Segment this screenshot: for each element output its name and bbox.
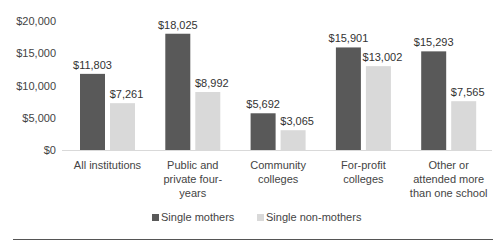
bar-single-non-mothers bbox=[366, 66, 391, 150]
x-tick-label: colleges bbox=[343, 173, 384, 185]
chart: $0$5,000$10,000$15,000$20,000$11,803$7,2… bbox=[0, 0, 503, 244]
x-tick-label: years bbox=[179, 187, 206, 199]
x-tick-label: Community bbox=[250, 159, 306, 171]
data-label: $3,065 bbox=[280, 115, 314, 127]
data-label: $15,901 bbox=[329, 32, 369, 44]
data-label: $13,002 bbox=[363, 51, 403, 63]
legend-label-single-non-mothers: Single non-mothers bbox=[266, 211, 362, 223]
y-tick-label: $10,000 bbox=[16, 80, 56, 92]
bar-single-non-mothers bbox=[195, 92, 220, 150]
y-tick-label: $5,000 bbox=[22, 112, 56, 124]
bar-single-mothers bbox=[421, 51, 446, 150]
bar-single-non-mothers bbox=[110, 103, 135, 150]
x-tick-label: For-profit bbox=[341, 159, 386, 171]
x-tick-label: than one school bbox=[410, 187, 488, 199]
y-tick-label: $20,000 bbox=[16, 15, 56, 27]
x-tick-label: attended more bbox=[413, 173, 484, 185]
bar-single-mothers bbox=[165, 34, 190, 150]
data-label: $15,293 bbox=[414, 36, 454, 48]
x-tick-label: colleges bbox=[258, 173, 299, 185]
y-tick-label: $15,000 bbox=[16, 47, 56, 59]
legend-swatch-single-non-mothers bbox=[257, 214, 264, 221]
x-tick-label: All institutions bbox=[74, 159, 142, 171]
data-label: $7,565 bbox=[451, 86, 485, 98]
y-tick-label: $0 bbox=[44, 144, 56, 156]
data-label: $7,261 bbox=[110, 88, 144, 100]
bar-single-mothers bbox=[336, 47, 361, 150]
bar-single-mothers bbox=[251, 113, 276, 150]
data-label: $11,803 bbox=[73, 59, 112, 71]
bar-single-non-mothers bbox=[451, 101, 476, 150]
data-label: $18,025 bbox=[158, 19, 198, 31]
bar-chart: $0$5,000$10,000$15,000$20,000$11,803$7,2… bbox=[0, 0, 503, 244]
data-label: $8,992 bbox=[195, 77, 229, 89]
bar-single-non-mothers bbox=[281, 130, 306, 150]
data-label: $5,692 bbox=[246, 98, 280, 110]
x-tick-label: private four- bbox=[163, 173, 222, 185]
x-tick-label: Public and bbox=[167, 159, 218, 171]
bar-single-mothers bbox=[80, 74, 105, 150]
legend-label-single-mothers: Single mothers bbox=[161, 211, 235, 223]
legend-swatch-single-mothers bbox=[152, 214, 159, 221]
x-tick-label: Other or bbox=[429, 159, 470, 171]
